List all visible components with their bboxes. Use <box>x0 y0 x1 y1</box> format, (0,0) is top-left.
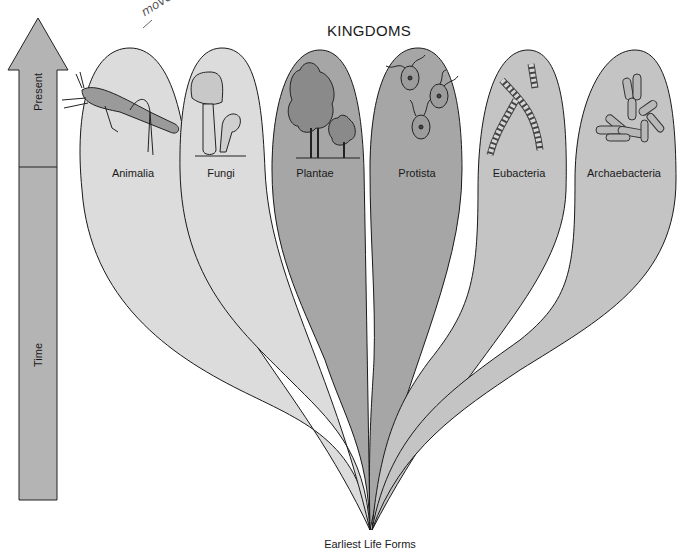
kingdom-label-animalia: Animalia <box>112 167 154 179</box>
earliest-life-forms-label: Earliest Life Forms <box>324 538 416 550</box>
kingdom-label-eubacteria: Eubacteria <box>493 167 546 179</box>
kingdom-label-protista: Protista <box>398 167 435 179</box>
present-label: Present <box>32 73 44 111</box>
kingdom-label-archaebacteria: Archaebacteria <box>587 167 661 179</box>
page-title: KINGDOMS <box>0 22 686 39</box>
kingdom-label-fungi: Fungi <box>207 167 235 179</box>
kingdom-label-plantae: Plantae <box>296 167 333 179</box>
kingdoms-diagram <box>0 0 686 555</box>
time-label: Time <box>32 343 44 367</box>
